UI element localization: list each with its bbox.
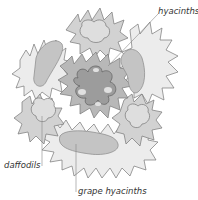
label-hyacinths: hyacinths [158,6,198,16]
label-grape-hyacinths: grape hyacinths [78,186,147,196]
planting-diagram [0,0,198,200]
label-daffodils: daffodils [4,160,41,170]
